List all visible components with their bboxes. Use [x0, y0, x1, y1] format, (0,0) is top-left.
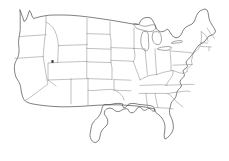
- state-border-il-in: [145, 49, 147, 75]
- lake-michigan-path: [141, 31, 149, 51]
- state-border-plains-east: [110, 22, 112, 79]
- state-border-nv-az: [48, 80, 56, 86]
- state-border-co-nm: [71, 79, 88, 80]
- state-border-ny-vt: [193, 32, 201, 54]
- state-border-ar-la: [114, 90, 131, 91]
- state-border-ut-az: [48, 79, 71, 80]
- state-border-wi-il: [134, 48, 145, 49]
- us-map-svg: [0, 0, 229, 161]
- state-border-id-wy: [58, 46, 59, 63]
- state-border-mn-ia: [111, 48, 134, 49]
- state-border-ia-mo: [111, 60, 133, 61]
- state-border-id-mt: [46, 22, 58, 46]
- state-border-or-ca: [15, 57, 43, 59]
- state-border-ok-tx: [88, 89, 124, 100]
- state-border-ma-ct: [201, 46, 212, 47]
- state-border-ne-ks: [87, 62, 111, 63]
- state-border-oh-wv: [157, 71, 173, 75]
- state-border-or-id: [43, 16, 46, 57]
- state-border-mo-ar: [114, 80, 131, 81]
- national-outline-path: [14, 9, 215, 143]
- state-border-ut-nv: [48, 62, 58, 80]
- state-border-sc-nc: [168, 91, 190, 94]
- state-border-pa-md: [173, 64, 192, 65]
- lake-erie-path: [158, 47, 172, 51]
- state-border-oh-pa: [170, 50, 171, 70]
- state-border-al-ga: [155, 93, 158, 107]
- state-borders-group: [15, 16, 214, 109]
- lake-huron-path: [152, 32, 161, 45]
- state-border-pa-ny: [171, 51, 193, 53]
- national-outline-group: [14, 9, 215, 143]
- state-border-nv-ca: [24, 57, 48, 101]
- state-border-vt-nh: [201, 32, 208, 41]
- state-border-ky-wv: [166, 71, 173, 86]
- state-border-ky-tn: [140, 85, 167, 86]
- state-border-ia-il: [133, 48, 135, 61]
- state-border-sd-ne: [87, 48, 111, 49]
- state-border-wa-or: [19, 35, 46, 37]
- state-border-ga-sc: [168, 94, 183, 107]
- state-border-nd-sd: [87, 34, 110, 35]
- location-marker-icon: [51, 60, 53, 63]
- state-border-ms-al: [146, 93, 147, 106]
- state-border-wy-ut-co: [58, 61, 87, 62]
- state-border-nc-va: [166, 84, 194, 85]
- state-border-in-oh: [155, 49, 157, 75]
- state-border-in-ky: [140, 75, 157, 80]
- state-border-wv-va: [173, 71, 187, 74]
- state-border-mt-wy: [58, 45, 87, 46]
- state-border-ks-ok: [88, 79, 112, 80]
- lake-ontario-path: [172, 41, 183, 44]
- state-border-mo-il: [133, 61, 140, 79]
- us-map-figure: [0, 0, 229, 161]
